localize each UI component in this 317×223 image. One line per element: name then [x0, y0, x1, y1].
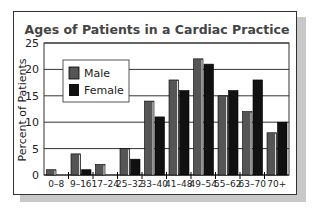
y-tick-label: 5 — [32, 143, 39, 156]
legend-label-female: Female — [84, 84, 124, 97]
bar-female — [82, 170, 92, 175]
bar-female — [229, 91, 239, 175]
chart: Ages of Patients in a Cardiac Practice P… — [0, 0, 317, 223]
bar-female — [278, 122, 288, 175]
legend-label-male: Male — [84, 67, 110, 80]
x-tick-label: 25–32 — [116, 179, 143, 189]
legend: Male Female — [63, 60, 129, 102]
x-tick-label: 0–8 — [48, 179, 64, 189]
legend-swatch-female — [69, 84, 79, 96]
bar-female — [155, 117, 165, 175]
bar-female — [253, 80, 263, 175]
x-tick-label: 9–16 — [70, 179, 92, 189]
y-tick-label: 10 — [25, 116, 39, 129]
chart-title: Ages of Patients in a Cardiac Practice — [25, 22, 290, 37]
x-tick-label: 55–62 — [214, 179, 241, 189]
y-tick-label: 15 — [25, 90, 39, 103]
y-tick-label: 20 — [25, 63, 39, 76]
bar-female — [131, 159, 141, 175]
bar-female — [180, 91, 190, 175]
bar-female — [204, 64, 214, 175]
legend-swatch-male — [69, 67, 79, 79]
x-tick-label: 70+ — [267, 179, 286, 189]
x-tick-label: 63–70 — [239, 179, 267, 189]
y-tick-label: 0 — [32, 169, 39, 182]
y-tick-label: 25 — [25, 37, 39, 50]
